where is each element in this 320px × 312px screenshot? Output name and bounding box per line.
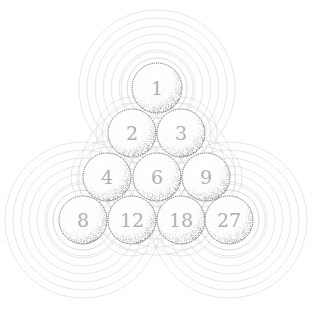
ball-8: 8 xyxy=(59,196,107,244)
pyramid-diagram: 1234698121827 xyxy=(0,0,320,312)
ball-2: 2 xyxy=(108,109,156,157)
ball-number: 2 xyxy=(126,122,138,144)
ball-3: 3 xyxy=(157,109,205,157)
ball-number: 12 xyxy=(120,209,144,231)
ball-6: 6 xyxy=(133,153,181,201)
ball-12: 12 xyxy=(108,196,156,244)
ball-4: 4 xyxy=(83,153,131,201)
ball-number: 4 xyxy=(101,166,113,188)
ball-number: 9 xyxy=(200,166,212,188)
ball-number: 8 xyxy=(77,209,89,231)
ball-18: 18 xyxy=(157,196,205,244)
ball-1: 1 xyxy=(132,63,182,113)
ball-27: 27 xyxy=(205,196,253,244)
ball-number: 6 xyxy=(151,166,163,188)
ball-number: 1 xyxy=(151,77,163,99)
ball-number: 18 xyxy=(169,209,193,231)
ball-number: 3 xyxy=(175,122,187,144)
ball-number: 27 xyxy=(217,209,241,231)
ball-9: 9 xyxy=(182,153,230,201)
